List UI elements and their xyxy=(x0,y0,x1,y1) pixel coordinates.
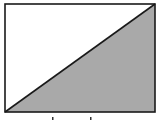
diagram-canvas xyxy=(0,0,157,121)
bottom-mark-left xyxy=(52,117,54,120)
bottom-mark-right xyxy=(90,117,92,120)
